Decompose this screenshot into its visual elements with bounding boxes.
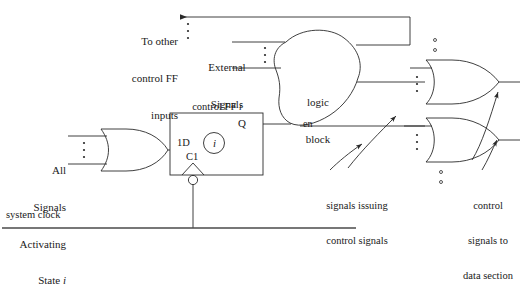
label-signals-issuing-line2: control signals (305, 235, 409, 247)
label-enable: en (303, 118, 312, 129)
label-all-signals-line3: Activating (2, 238, 66, 250)
label-ff-clock-input: C1 (186, 151, 198, 163)
label-signals-issuing-line1: signals issuing (305, 200, 409, 212)
label-all-signals-index: i (63, 274, 66, 286)
ellipsis-between-gates (434, 39, 437, 52)
ellipsis-or-top-inputs (416, 76, 418, 92)
label-all-signals-line1: All (2, 164, 66, 176)
label-control-to-data-line3: data section (452, 270, 524, 282)
annotation-arrow-control-to-data-bottom (482, 140, 497, 170)
label-control-to-data-line2: signals to (452, 235, 524, 247)
label-ff-d-input: 1D (177, 137, 190, 149)
label-to-other-ff-line3: inputs (96, 109, 178, 121)
label-control-ff-title: control FF i (172, 101, 262, 113)
label-control-ff-index: i (239, 101, 242, 112)
ellipsis-all-signals (83, 142, 85, 158)
label-control-signals-to-data-section: control signals to data section (452, 176, 524, 288)
label-external-signals: External Signals (196, 36, 258, 135)
label-ff-q-output: Q (238, 117, 246, 129)
label-logic-block-line1: logic (296, 96, 340, 108)
label-control-to-data-line1: control (452, 200, 524, 212)
label-logic-block-line2: block (296, 133, 340, 145)
label-signals-issuing-control-signals: signals issuing control signals (305, 176, 409, 270)
ellipsis-below-bottom-gate (440, 171, 443, 184)
ellipsis-external-signals (264, 47, 266, 63)
label-system-clock: system clock (6, 209, 61, 221)
label-to-other-ff-line2: control FF (96, 72, 178, 84)
label-external-signals-line1: External (196, 61, 258, 73)
label-control-ff-text: control FF (192, 101, 239, 112)
annotation-arrow-control-to-data-top (472, 92, 498, 160)
label-to-other-ff-line1: To other (96, 35, 178, 47)
label-to-other-ff-inputs: To other control FF inputs (96, 10, 178, 145)
or-gate-bottom-shape (404, 118, 520, 162)
or-gate-top-shape (410, 60, 520, 104)
label-ff-state-index: i (209, 137, 220, 149)
label-all-signals-state: State (38, 274, 63, 286)
annotation-arrow-signals-issuing-top (348, 116, 396, 168)
ellipsis-or-bottom-inputs (416, 134, 418, 150)
ellipsis-to-other-ff (187, 23, 189, 39)
label-all-signals-line4: State i (2, 274, 66, 286)
